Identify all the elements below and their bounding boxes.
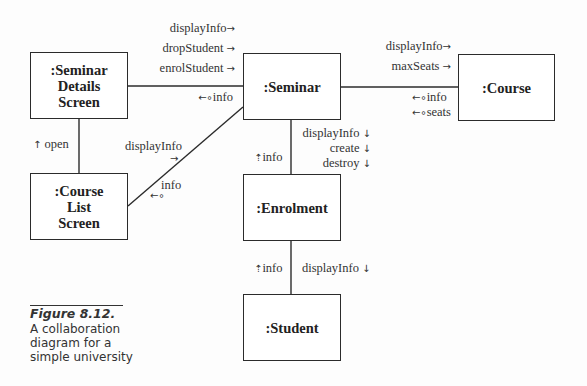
object-seminar: :Seminar	[243, 53, 341, 120]
return-arrow-left-icon: ←∘	[150, 188, 165, 203]
arrow-right-icon: →	[170, 151, 178, 166]
caption-line: simple university	[30, 350, 133, 364]
object-label: :Course	[482, 80, 531, 96]
message-label: ↑ open	[33, 137, 69, 152]
return-label: ⇡info	[254, 150, 283, 165]
arrow-right-icon: →	[443, 61, 451, 72]
object-enrolment: :Enrolment	[243, 174, 341, 241]
arrow-right-icon: →	[443, 41, 451, 52]
object-seminar-details-screen: :Seminar Details Screen	[30, 52, 128, 119]
arrow-right-icon: →	[227, 63, 235, 74]
arrow-down-icon: ↓	[363, 158, 371, 169]
message-label: dropStudent →	[162, 41, 235, 56]
collaboration-diagram: :Seminar Details Screen :Seminar :Course…	[0, 0, 587, 386]
caption-line: diagram for a	[30, 336, 111, 350]
object-student: :Student	[243, 294, 341, 361]
return-label: ←∘info	[198, 90, 233, 105]
message-label: displayInfo→	[170, 21, 235, 36]
object-label: :Seminar Details Screen	[50, 62, 107, 110]
arrow-up-icon: ↑	[33, 139, 41, 150]
message-label: maxSeats →	[392, 59, 451, 74]
object-label: :Student	[265, 320, 318, 336]
message-label: displayInfo→	[386, 39, 451, 54]
return-arrow-left-icon: ←∘	[412, 92, 427, 103]
object-label: :Course List Screen	[54, 183, 103, 231]
caption-title: Figure 8.12.	[30, 307, 115, 321]
return-label: ←∘info	[412, 90, 447, 105]
object-label: :Seminar	[263, 79, 320, 95]
arrow-right-icon: →	[227, 23, 235, 34]
arrow-right-icon: →	[227, 43, 235, 54]
message-label: enrolStudent →	[160, 61, 235, 76]
message-label: displayInfo ↓	[303, 126, 371, 141]
object-course-list-screen: :Course List Screen	[30, 173, 128, 240]
message-label: displayInfo ↓	[302, 261, 370, 276]
arrow-down-icon: ↓	[363, 143, 371, 154]
message-label: create ↓	[330, 141, 371, 156]
return-arrow-left-icon: ←∘	[198, 92, 213, 103]
caption-line: A collaboration	[30, 322, 120, 336]
link-cls-seminar	[128, 107, 243, 206]
arrow-down-icon: ↓	[362, 263, 370, 274]
return-label: ←∘seats	[412, 105, 451, 120]
return-label: ⇡info	[254, 261, 283, 276]
message-label: destroy ↓	[323, 156, 371, 171]
object-course: :Course	[458, 54, 555, 121]
return-arrow-left-icon: ←∘	[412, 107, 427, 118]
object-label: :Enrolment	[256, 200, 327, 216]
arrow-down-icon: ↓	[363, 128, 371, 139]
